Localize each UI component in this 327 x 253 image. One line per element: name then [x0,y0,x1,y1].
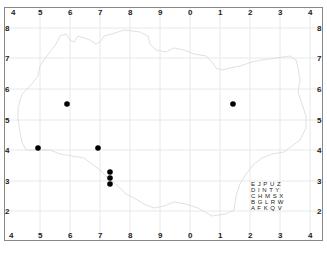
svg-text:4: 4 [11,8,16,17]
svg-text:9: 9 [158,231,163,240]
svg-text:7: 7 [5,54,10,63]
svg-text:4: 4 [308,8,313,17]
svg-text:2: 2 [5,207,10,216]
svg-text:7: 7 [98,231,103,240]
svg-text:8: 8 [5,24,10,33]
svg-text:3: 3 [317,177,322,186]
svg-text:6: 6 [317,85,322,94]
svg-text:5: 5 [317,116,322,125]
occurrence-point [35,145,41,151]
svg-text:6: 6 [68,231,73,240]
occurrence-point [107,175,113,181]
svg-text:1: 1 [218,231,223,240]
svg-text:4: 4 [308,231,313,240]
svg-text:5: 5 [5,116,10,125]
svg-text:2: 2 [248,231,253,240]
occurrence-point [95,145,101,151]
occurrence-point [107,181,113,187]
svg-text:7: 7 [98,8,103,17]
svg-text:4: 4 [9,231,14,240]
svg-text:9: 9 [158,8,163,17]
occurrence-point [64,101,70,107]
svg-text:5: 5 [38,8,43,17]
svg-text:0: 0 [188,8,193,17]
svg-text:0: 0 [188,231,193,240]
svg-text:3: 3 [5,177,10,186]
grid-reference-legend: E J P U Z D I N T Y C H M S X B G L R W … [251,181,284,211]
occurrence-point [107,169,113,175]
svg-text:4: 4 [317,146,322,155]
svg-text:8: 8 [317,24,322,33]
svg-text:A F K Q V: A F K Q V [251,205,282,211]
svg-text:6: 6 [68,8,73,17]
svg-text:2: 2 [248,8,253,17]
distribution-map: 4 5 6 7 8 9 0 1 2 3 4 4 5 6 7 8 9 0 1 2 … [0,0,327,253]
svg-text:3: 3 [278,231,283,240]
svg-text:3: 3 [278,8,283,17]
occurrence-point [230,101,236,107]
svg-text:7: 7 [317,54,322,63]
svg-text:6: 6 [5,85,10,94]
svg-text:5: 5 [38,231,43,240]
svg-text:2: 2 [317,207,322,216]
svg-text:8: 8 [128,231,133,240]
svg-text:1: 1 [218,8,223,17]
svg-text:4: 4 [5,146,10,155]
svg-text:8: 8 [128,8,133,17]
